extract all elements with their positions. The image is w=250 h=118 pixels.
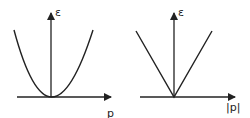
parabola-curve	[14, 30, 93, 97]
y-label-left: ε	[55, 6, 61, 19]
y-label-right: ε	[178, 6, 184, 19]
x-label-left: p	[107, 107, 114, 118]
panel-left: ε p	[14, 6, 114, 118]
x-label-right: |p|	[226, 101, 240, 114]
dispersion-diagram: ε p ε |p|	[0, 0, 250, 118]
panel-right: ε |p|	[136, 6, 240, 114]
